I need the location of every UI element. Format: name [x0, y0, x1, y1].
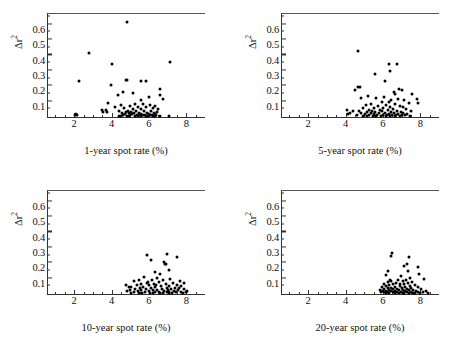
- data-point: [400, 88, 403, 91]
- x-axis-title-4: 20-year spot rate (%): [281, 322, 439, 333]
- data-point: [373, 73, 376, 76]
- x-tick-minor: [327, 292, 328, 294]
- data-point: [130, 291, 133, 294]
- data-point: [403, 99, 406, 102]
- data-point: [384, 115, 387, 118]
- data-point: [355, 113, 358, 116]
- x-tick-minor: [299, 115, 300, 117]
- x-tick-minor: [318, 292, 319, 294]
- y-tick-mark: [282, 100, 286, 101]
- x-tick-mark: [74, 290, 75, 294]
- data-point: [146, 281, 149, 284]
- data-point: [126, 289, 129, 292]
- x-tick-minor: [177, 115, 178, 117]
- data-point: [169, 60, 172, 63]
- data-point: [169, 277, 172, 280]
- x-tick-label: 8: [418, 119, 423, 130]
- data-point: [77, 80, 80, 83]
- y-tick-mark: [282, 216, 286, 217]
- x-tick-minor: [299, 292, 300, 294]
- data-point: [156, 110, 159, 113]
- data-point: [415, 97, 418, 100]
- x-tick-label: 4: [343, 296, 348, 307]
- x-tick-minor: [336, 292, 337, 294]
- x-tick-mark: [420, 113, 421, 117]
- x-tick-minor: [102, 115, 103, 117]
- data-point: [418, 273, 421, 276]
- x-tick-label: 6: [146, 119, 151, 130]
- x-tick-minor: [430, 115, 431, 117]
- data-point: [88, 51, 91, 54]
- data-point: [136, 115, 139, 118]
- data-point: [408, 101, 411, 104]
- x-tick-minor: [289, 115, 290, 117]
- data-point: [156, 277, 159, 280]
- y-tick-minor: [282, 269, 284, 270]
- data-point: [151, 106, 154, 109]
- data-point: [394, 93, 397, 96]
- data-point: [177, 286, 180, 289]
- data-point: [362, 106, 365, 109]
- y-axis-title-2: Δr2: [244, 35, 258, 49]
- data-point: [128, 115, 131, 118]
- x-tick-mark: [308, 290, 309, 294]
- data-point: [105, 110, 108, 113]
- data-point: [362, 114, 365, 117]
- data-point: [159, 94, 162, 97]
- data-point: [390, 98, 393, 101]
- data-point: [161, 291, 164, 294]
- data-point: [102, 111, 105, 114]
- data-point: [422, 290, 425, 293]
- data-point: [375, 96, 378, 99]
- data-point: [153, 271, 156, 274]
- data-point: [118, 115, 121, 118]
- data-point: [140, 114, 143, 117]
- data-point: [397, 291, 400, 294]
- y-tick-mark: [48, 277, 52, 278]
- data-point: [172, 281, 175, 284]
- y-axis-title-1: Δr2: [10, 35, 24, 49]
- data-point: [399, 275, 402, 278]
- x-tick-minor: [289, 292, 290, 294]
- x-axis-title-1: 1-year spot rate (%): [47, 145, 205, 156]
- y-tick-minor: [282, 254, 284, 255]
- data-point: [377, 105, 380, 108]
- x-tick-mark: [186, 113, 187, 117]
- caption-fragment: [0, 346, 468, 354]
- data-point: [403, 292, 406, 295]
- y-tick-mark: [48, 69, 52, 70]
- data-point: [380, 291, 383, 294]
- y-tick-mark: [282, 39, 286, 40]
- y-tick-minor: [48, 193, 50, 194]
- x-tick-minor: [65, 115, 66, 117]
- y-tick-mark: [48, 200, 52, 201]
- data-point: [388, 63, 391, 66]
- data-point: [382, 95, 385, 98]
- x-axis-title-3: 10-year spot rate (%): [47, 322, 205, 333]
- data-point: [365, 103, 368, 106]
- data-point: [389, 278, 392, 281]
- data-point: [145, 106, 148, 109]
- x-tick-minor: [336, 115, 337, 117]
- y-tick-mark: [282, 85, 286, 86]
- data-point: [141, 291, 144, 294]
- data-point: [139, 79, 142, 82]
- x-tick-minor: [318, 115, 319, 117]
- data-point: [139, 108, 142, 111]
- data-point: [408, 256, 411, 259]
- data-point: [387, 101, 390, 104]
- x-tick-label: 6: [380, 296, 385, 307]
- data-point: [383, 80, 386, 83]
- y-tick-minor: [282, 31, 284, 32]
- x-tick-label: 8: [184, 296, 189, 307]
- y-tick-mark: [48, 231, 52, 232]
- data-point: [171, 292, 174, 295]
- data-point: [413, 292, 416, 295]
- x-tick-label: 2: [306, 119, 311, 130]
- y-tick-mark: [282, 231, 286, 232]
- x-tick-label: 2: [72, 296, 77, 307]
- y-tick-mark: [48, 100, 52, 101]
- x-tick-minor: [55, 292, 56, 294]
- data-point: [398, 283, 401, 286]
- y-tick-minor: [48, 46, 50, 47]
